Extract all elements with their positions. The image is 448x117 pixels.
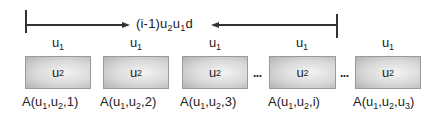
t: A(u xyxy=(353,94,373,109)
slot-bottom-label: A(u1,u2,u3) xyxy=(353,94,414,111)
span-label-part: (i-1)u xyxy=(136,16,168,31)
sub: 1 xyxy=(137,42,142,52)
sub: 1 xyxy=(59,42,64,52)
t: ,u xyxy=(205,94,216,109)
var: u xyxy=(209,65,216,80)
slot-bottom-label: A(u1,u2,1) xyxy=(22,94,78,111)
t: ,i) xyxy=(309,94,320,109)
t: ) xyxy=(410,94,414,109)
t: ,u xyxy=(293,94,304,109)
slot-box: u2 xyxy=(269,56,336,89)
slot-box: u2 xyxy=(103,56,169,89)
sub: 2 xyxy=(389,68,394,78)
sub: 1 xyxy=(389,42,394,52)
slot-box: u2 xyxy=(25,56,91,89)
slot-top-label: u1 xyxy=(25,35,91,52)
span-right-tick xyxy=(336,14,338,38)
var: u xyxy=(382,65,389,80)
slot-box: u2 xyxy=(182,56,248,89)
ellipsis: ... xyxy=(253,66,262,80)
var: u xyxy=(296,65,303,80)
t: ,u xyxy=(47,94,58,109)
span-left-tick xyxy=(25,10,27,33)
t: A(u xyxy=(180,94,200,109)
t: A(u xyxy=(268,94,288,109)
span-left-line xyxy=(25,24,122,26)
sub: 2 xyxy=(304,68,309,78)
var: u xyxy=(130,65,137,80)
t: A(u xyxy=(100,94,120,109)
ellipsis: ... xyxy=(340,66,349,80)
span-right-line xyxy=(219,24,336,26)
slot-box: u2 xyxy=(355,56,421,89)
t: ,u xyxy=(378,94,389,109)
slot-top-label: u1 xyxy=(103,35,169,52)
span-label: (i-1)u2u1d xyxy=(136,16,193,33)
t: ,1) xyxy=(63,94,78,109)
slot-top-label: u1 xyxy=(269,35,335,52)
slot-bottom-label: A(u1,u2,3) xyxy=(180,94,236,111)
t: ,u xyxy=(125,94,136,109)
sub: 2 xyxy=(59,68,64,78)
slot-bottom-label: A(u1,u2,2) xyxy=(100,94,156,111)
sub: 1 xyxy=(303,42,308,52)
slot-bottom-label: A(u1,u2,i) xyxy=(268,94,320,111)
slot-top-label: u1 xyxy=(355,35,421,52)
var: u xyxy=(52,65,59,80)
arrowhead-right-icon xyxy=(122,22,130,28)
t: ,2) xyxy=(141,94,156,109)
t: ,3) xyxy=(221,94,236,109)
t: A(u xyxy=(22,94,42,109)
sub: 2 xyxy=(216,68,221,78)
slot-top-label: u1 xyxy=(182,35,248,52)
sub: 2 xyxy=(137,68,142,78)
t: ,u xyxy=(394,94,405,109)
sub: 1 xyxy=(216,42,221,52)
span-label-part: d xyxy=(185,16,192,31)
arrowhead-left-icon xyxy=(211,22,219,28)
